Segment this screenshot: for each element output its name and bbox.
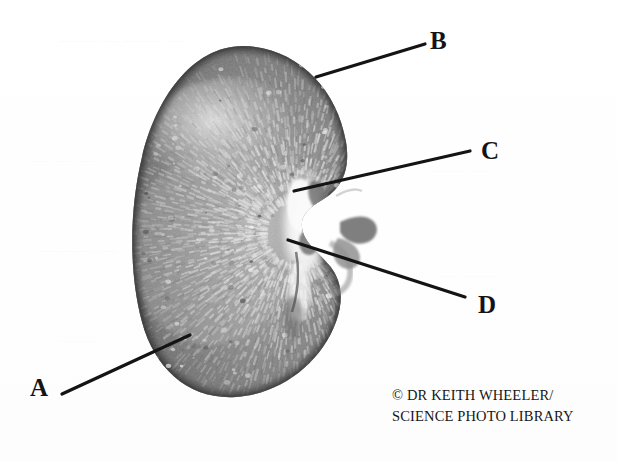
credit-line-1: © DR KEITH WHEELER/ (392, 385, 574, 406)
credit-block: © DR KEITH WHEELER/ SCIENCE PHOTO LIBRAR… (392, 385, 574, 427)
ghost-text: ——— — (40, 240, 117, 260)
ghost-text: — —— (440, 265, 499, 285)
label-D: D (478, 292, 496, 317)
credit-line-2: SCIENCE PHOTO LIBRARY (392, 406, 574, 427)
ghost-text: —— (60, 330, 96, 350)
figure-canvas: — — ——— — —— ———— ——— —— ———— A B C D © … (0, 0, 617, 461)
label-C: C (481, 138, 499, 163)
label-A: A (30, 375, 48, 400)
label-B: B (430, 28, 447, 53)
ghost-text: — — — (30, 150, 95, 170)
ghost-text: —— — —— — (60, 30, 184, 50)
